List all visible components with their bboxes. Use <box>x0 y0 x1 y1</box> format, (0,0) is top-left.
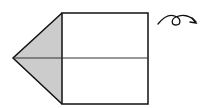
turn-over-arrow-icon <box>158 15 196 25</box>
origami-diagram <box>0 0 207 108</box>
